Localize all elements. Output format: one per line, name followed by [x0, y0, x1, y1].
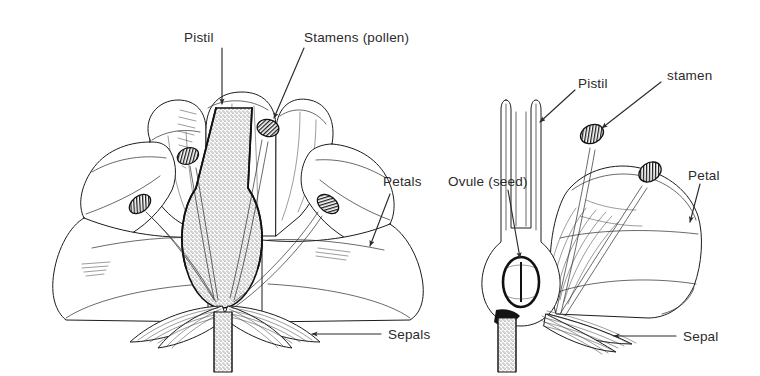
- label-pistil-right: Pistil: [578, 76, 608, 91]
- label-ovule-right: Ovule (seed): [448, 174, 528, 189]
- label-petal-right: Petal: [688, 168, 720, 183]
- right-stem: [498, 318, 516, 372]
- right-stem-body: [498, 318, 516, 372]
- label-sepal-right: Sepal: [683, 329, 719, 344]
- label-pistil-left: Pistil: [184, 30, 214, 45]
- stem-body: [214, 312, 232, 372]
- diagram-canvas: Pistil Stamens (pollen) Petals Sepals: [0, 0, 760, 376]
- petal-main: [550, 166, 701, 318]
- right-petal: [550, 166, 701, 318]
- label-petals-left: Petals: [383, 174, 422, 189]
- label-sepals-left: Sepals: [388, 327, 431, 342]
- label-stamen-right: stamen: [667, 68, 712, 83]
- flower-diagram-figure: Pistil Stamens (pollen) Petals Sepals: [0, 0, 760, 376]
- label-stamens-left: Stamens (pollen): [304, 30, 409, 45]
- left-stem: [214, 312, 232, 372]
